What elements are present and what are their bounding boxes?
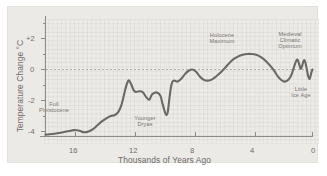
- temperature-curve: [46, 54, 313, 135]
- climate-chart-figure: Temperature Change °C Thousands of Years…: [0, 0, 327, 176]
- plot-canvas: [0, 0, 327, 176]
